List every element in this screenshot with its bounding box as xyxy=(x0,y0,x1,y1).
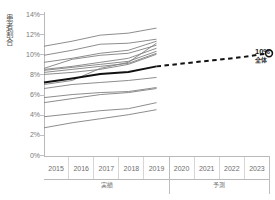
series-line xyxy=(44,28,157,46)
series-line xyxy=(44,88,157,98)
y-tick-mark xyxy=(40,74,44,75)
x-tick-label-2016: 2016 xyxy=(69,157,94,179)
x-tick-label-2022: 2022 xyxy=(220,157,245,179)
y-tick-mark xyxy=(40,155,44,156)
series-line xyxy=(157,53,270,66)
y-tick-label: 2% xyxy=(16,131,40,138)
y-tick-mark xyxy=(40,95,44,96)
group-label-actual: 実績 xyxy=(44,178,169,194)
x-axis-table: 201520162017201820192020202120222023 xyxy=(44,156,269,180)
y-axis-tick-labels: 14%12%10%8%6%4%2%0% xyxy=(14,0,40,200)
series-line xyxy=(44,43,157,84)
x-tick-label-2023: 2023 xyxy=(245,157,269,179)
series-line xyxy=(44,110,157,128)
series-line xyxy=(44,45,157,68)
annotation-sublabel: 全体 xyxy=(255,56,275,64)
actual-forecast-divider xyxy=(169,156,170,194)
x-tick-label-2021: 2021 xyxy=(195,157,220,179)
x-tick-label-2017: 2017 xyxy=(94,157,119,179)
y-tick-label: 14% xyxy=(16,11,40,18)
series-line xyxy=(44,103,157,117)
x-tick-label-2020: 2020 xyxy=(170,157,195,179)
y-axis-label: 患者割合 xyxy=(1,14,12,46)
y-tick-mark xyxy=(40,135,44,136)
y-tick-label: 0% xyxy=(16,152,40,159)
y-tick-label: 12% xyxy=(16,31,40,38)
x-axis-group-row: 実績 予測 xyxy=(44,178,269,194)
y-tick-label: 4% xyxy=(16,111,40,118)
x-axis-right-edge xyxy=(269,156,270,194)
x-tick-label-2018: 2018 xyxy=(119,157,144,179)
plot-area xyxy=(44,14,269,155)
y-tick-label: 8% xyxy=(16,71,40,78)
chart-root: 患者割合 14%12%10%8%6%4%2%0% 201520162017201… xyxy=(0,0,275,200)
endpoint-annotation: 10% 全体 xyxy=(255,48,275,64)
chart-title xyxy=(24,0,234,6)
series-lines xyxy=(44,14,269,155)
x-tick-label-2019: 2019 xyxy=(144,157,169,179)
y-tick-mark xyxy=(40,14,44,15)
y-tick-label: 6% xyxy=(16,91,40,98)
group-label-forecast: 予測 xyxy=(169,178,269,194)
y-tick-mark xyxy=(40,54,44,55)
y-tick-label: 10% xyxy=(16,51,40,58)
series-thin-group xyxy=(44,28,157,128)
annotation-value: 10% xyxy=(255,48,275,56)
y-tick-mark xyxy=(40,34,44,35)
x-tick-label-2015: 2015 xyxy=(44,157,69,179)
y-tick-mark xyxy=(40,115,44,116)
